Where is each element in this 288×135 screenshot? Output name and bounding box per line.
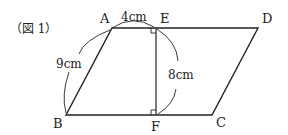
right-angle-mark-f bbox=[151, 110, 156, 115]
arc-ef-bottom bbox=[158, 89, 176, 114]
label-d: D bbox=[262, 11, 272, 26]
arc-ef-top bbox=[157, 29, 178, 61]
dimension-ab: 9cm bbox=[56, 57, 82, 71]
label-c: C bbox=[216, 115, 226, 130]
label-a: A bbox=[99, 11, 110, 26]
parallelogram-abcd bbox=[66, 28, 258, 115]
right-angle-mark-e bbox=[151, 28, 156, 33]
label-e: E bbox=[160, 11, 170, 26]
dimension-ae: 4cm bbox=[121, 10, 147, 24]
parallelogram-diagram: （図 1） A E D B F C 4cm 9cm 8cm bbox=[0, 0, 288, 135]
label-f: F bbox=[151, 119, 160, 134]
dimension-ef: 8cm bbox=[168, 68, 194, 82]
arc-ab-bottom bbox=[64, 72, 69, 113]
figure-caption: （図 1） bbox=[10, 22, 57, 36]
label-b: B bbox=[53, 116, 63, 131]
